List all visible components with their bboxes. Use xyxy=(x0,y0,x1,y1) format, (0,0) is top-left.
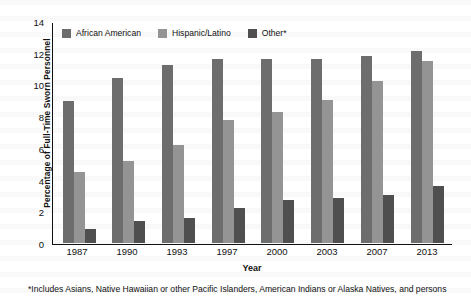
bar-groups xyxy=(54,23,452,243)
bar-group xyxy=(212,23,245,243)
bar xyxy=(411,51,422,242)
bar xyxy=(333,198,344,243)
legend-label: Hispanic/Latino xyxy=(172,29,231,38)
bar-group xyxy=(361,23,394,243)
bar-group xyxy=(112,23,145,243)
chart-footnote: *Includes Asians, Native Hawaiian or oth… xyxy=(28,285,458,295)
bar xyxy=(422,61,433,242)
bar xyxy=(283,200,294,242)
bar-group xyxy=(162,23,195,243)
bar xyxy=(112,78,123,243)
x-axis-title: Year xyxy=(52,263,452,273)
x-axis-tick-label: 2000 xyxy=(254,247,300,261)
bar xyxy=(433,186,444,242)
y-axis-tick-label: 0 xyxy=(39,240,44,250)
x-axis-tick-label: 1987 xyxy=(54,247,100,261)
bar xyxy=(223,120,234,242)
legend-label: African American xyxy=(76,29,141,38)
bar xyxy=(184,218,195,243)
bar-chart-figure: Percentage of Full-Time Sworn Personnel … xyxy=(0,0,471,300)
bar xyxy=(85,229,96,242)
bar xyxy=(162,65,173,242)
bar xyxy=(261,59,272,243)
y-axis: Percentage of Full-Time Sworn Personnel … xyxy=(0,0,52,300)
legend-swatch-icon xyxy=(158,29,167,38)
legend-swatch-icon xyxy=(248,29,257,38)
bar xyxy=(212,59,223,243)
y-axis-tick-label: 4 xyxy=(39,177,44,187)
x-axis-tick-label: 2007 xyxy=(354,247,400,261)
y-axis-tick-label: 12 xyxy=(33,50,44,60)
x-axis-tick-label: 2013 xyxy=(404,247,450,261)
x-axis: 19871990199319972000200320072013 xyxy=(52,247,452,261)
bar xyxy=(272,112,283,242)
legend-item-african-american: African American xyxy=(62,29,141,38)
x-axis-tick-label: 1997 xyxy=(204,247,250,261)
y-axis-tick-label: 10 xyxy=(33,82,44,92)
bar xyxy=(322,100,333,243)
bar xyxy=(123,161,134,243)
bar xyxy=(383,195,394,243)
bar xyxy=(63,101,74,242)
chart-legend: African American Hispanic/Latino Other* xyxy=(62,29,287,38)
x-axis-tick-label: 1990 xyxy=(104,247,150,261)
bar-group xyxy=(63,23,96,243)
bar-group xyxy=(411,23,444,243)
x-axis-tick-label: 2003 xyxy=(304,247,350,261)
legend-item-other: Other* xyxy=(248,29,287,38)
y-axis-tick-label: 8 xyxy=(39,113,44,123)
bar xyxy=(173,145,184,242)
y-axis-tick-label: 2 xyxy=(39,209,44,219)
bar xyxy=(74,172,85,243)
legend-swatch-icon xyxy=(62,29,71,38)
legend-item-hispanic-latino: Hispanic/Latino xyxy=(158,29,231,38)
bar-group xyxy=(311,23,344,243)
bar-group xyxy=(261,23,294,243)
bar xyxy=(361,56,372,243)
y-axis-tick-label: 14 xyxy=(33,18,44,28)
bar xyxy=(372,81,383,243)
x-axis-tick-label: 1993 xyxy=(154,247,200,261)
bar xyxy=(311,59,322,243)
bar xyxy=(134,221,145,242)
bar xyxy=(234,208,245,243)
legend-label: Other* xyxy=(262,29,287,38)
y-axis-tick-label: 6 xyxy=(39,145,44,155)
plot-area xyxy=(52,23,452,245)
